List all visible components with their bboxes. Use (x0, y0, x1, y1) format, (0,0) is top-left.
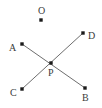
point-label-o: O (38, 6, 45, 16)
point-marker-b (83, 86, 86, 89)
point-marker-a (20, 42, 23, 45)
point-marker-d (81, 31, 84, 34)
segments-group (22, 33, 85, 89)
points-group (20, 18, 86, 90)
point-label-a: A (9, 43, 16, 53)
point-label-c: C (10, 88, 17, 98)
point-label-d: D (88, 31, 95, 41)
point-marker-o (39, 18, 42, 21)
point-label-b: B (82, 93, 89, 103)
segment-ab (22, 44, 85, 88)
geometry-figure: OADPCB (0, 0, 102, 108)
point-marker-c (20, 87, 23, 90)
point-marker-p (49, 61, 52, 64)
point-label-p: P (48, 68, 54, 78)
